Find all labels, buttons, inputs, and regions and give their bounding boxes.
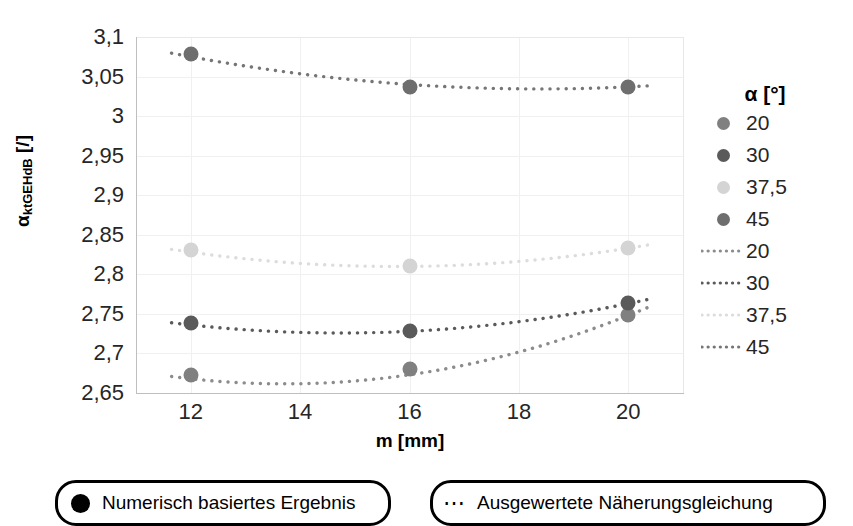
legend-dotted-line-icon <box>701 343 745 351</box>
y-tick-label: 2,75 <box>24 303 124 325</box>
y-tick-label: 2,7 <box>24 342 124 364</box>
x-tick-label: 18 <box>484 400 554 424</box>
legend-dot-icon <box>700 213 746 226</box>
legend-label: 45 <box>746 335 769 359</box>
y-tick-label: 2,65 <box>24 382 124 404</box>
caption-left-text: Numerisch basiertes Ergebnis <box>102 492 355 514</box>
legend-dotted-line-icon <box>701 279 745 287</box>
data-point <box>183 47 198 62</box>
plot-right-border <box>683 37 684 394</box>
data-point <box>183 315 198 330</box>
legend-line-item-20[interactable]: 20 <box>700 236 853 266</box>
gridline-vertical <box>519 37 520 394</box>
gridline-vertical <box>300 37 301 394</box>
y-tick-label: 3 <box>24 105 124 127</box>
chart-screenshot: 2,652,72,752,82,852,92,9533,053,1 121416… <box>0 0 853 526</box>
data-point <box>402 79 417 94</box>
data-point <box>621 295 636 310</box>
legend-label: 20 <box>746 111 769 135</box>
y-tick-label: 2,9 <box>24 184 124 206</box>
legend-label: 30 <box>746 143 769 167</box>
y-tick-label: 3,05 <box>24 66 124 88</box>
legend-title: α [°] <box>710 82 820 106</box>
legend-marker-item-30[interactable]: 30 <box>700 140 853 170</box>
legend-label: 37,5 <box>746 175 787 199</box>
x-axis-label: m [mm] <box>136 430 684 452</box>
filled-circle-icon <box>58 494 102 513</box>
legend-line-entries: 203037,545 <box>700 236 853 362</box>
legend-dotted-line-icon <box>701 311 745 319</box>
legend-marker-item-37-5[interactable]: 37,5 <box>700 172 853 202</box>
caption-right-text: Ausgewertete Näherungsgleichung <box>477 492 773 514</box>
x-tick-label: 12 <box>156 400 226 424</box>
legend-line-item-30[interactable]: 30 <box>700 268 853 298</box>
legend-dot-icon <box>700 117 746 130</box>
legend-label: 37,5 <box>746 303 787 327</box>
data-point <box>621 241 636 256</box>
data-point <box>183 242 198 257</box>
data-point <box>621 79 636 94</box>
data-point <box>183 367 198 382</box>
y-tick-label: 2,85 <box>24 224 124 246</box>
legend-dotted-line-icon <box>701 247 745 255</box>
legend-label: 20 <box>746 239 769 263</box>
legend-marker-item-45[interactable]: 45 <box>700 204 853 234</box>
x-tick-label: 16 <box>375 400 445 424</box>
dotted-line-icon: ⋯ <box>433 498 477 508</box>
caption-numerical-result: Numerisch basiertes Ergebnis <box>55 480 391 526</box>
gridline-vertical <box>191 37 192 394</box>
y-tick-label: 2,95 <box>24 145 124 167</box>
legend-dot-icon <box>700 149 746 162</box>
x-tick-label: 20 <box>593 400 663 424</box>
legend-marker-entries: 203037,545 <box>700 108 853 234</box>
y-axis-label: αktGEHdB [/] <box>12 96 34 266</box>
caption-boxes: Numerisch basiertes Ergebnis ⋯ Ausgewert… <box>0 478 853 526</box>
x-axis-line <box>136 393 684 394</box>
legend-label: 30 <box>746 271 769 295</box>
caption-approximation-equation: ⋯ Ausgewertete Näherungsgleichung <box>430 480 826 526</box>
y-axis-line <box>136 37 137 394</box>
legend-marker-item-20[interactable]: 20 <box>700 108 853 138</box>
y-tick-label: 3,1 <box>24 26 124 48</box>
legend-dot-icon <box>700 181 746 194</box>
data-point <box>402 323 417 338</box>
legend-line-item-45[interactable]: 45 <box>700 332 853 362</box>
legend-line-item-37-5[interactable]: 37,5 <box>700 300 853 330</box>
y-tick-label: 2,8 <box>24 263 124 285</box>
x-tick-label: 14 <box>265 400 335 424</box>
legend-label: 45 <box>746 207 769 231</box>
plot-top-border <box>136 37 684 38</box>
data-point <box>402 259 417 274</box>
data-point <box>402 362 417 377</box>
chart-legend: α [°] 203037,545 203037,545 <box>700 82 853 362</box>
